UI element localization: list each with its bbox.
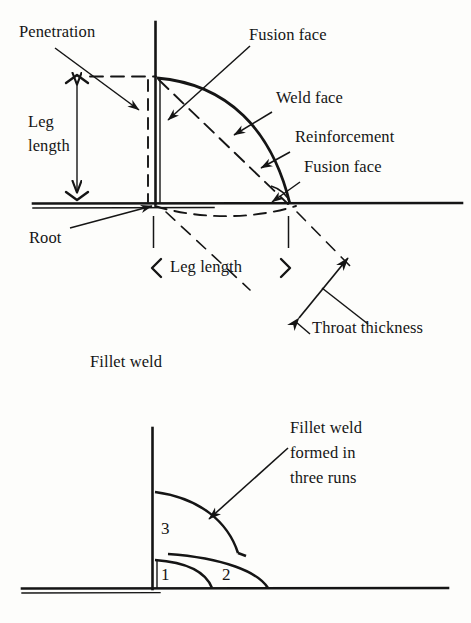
annotation-three-runs-line2: formed in: [290, 443, 356, 462]
leg-length-dashed-leader: [166, 212, 250, 290]
weld-face-leader-line: [234, 112, 272, 135]
bottom-vertical-plate: [153, 428, 158, 589]
reinforcement-leader-line: [261, 152, 290, 168]
annotation-three-runs-line1: Fillet weld: [290, 418, 362, 437]
label-weld-face: Weld face: [276, 88, 343, 107]
weld-run-label-3: 3: [161, 519, 170, 539]
label-root: Root: [29, 228, 62, 247]
throat-thickness-dimension-arrow: [299, 258, 348, 318]
bottom-base-plate: [22, 588, 448, 593]
throat-dashed-leader: [297, 212, 352, 268]
root-leader-line: [70, 206, 152, 228]
penetration-leader-line: [55, 48, 139, 110]
label-leg-length-horizontal: Leg length: [170, 257, 242, 276]
label-penetration: Penetration: [19, 22, 95, 41]
figure-linework: [0, 0, 471, 623]
top-vertical-plate: [156, 22, 161, 204]
weld-run-label-1: 1: [161, 565, 170, 585]
caption-fillet-weld: Fillet weld: [90, 352, 162, 371]
weld-run-label-2: 2: [222, 565, 231, 585]
leg-length-horizontal-extension-lines: [154, 216, 289, 248]
label-fusion-face-top: Fusion face: [249, 25, 327, 44]
top-base-plate: [33, 203, 462, 208]
label-reinforcement: Reinforcement: [295, 127, 394, 146]
three-runs-leader-line: [209, 448, 288, 519]
run-3-to-run-2-junction: [238, 553, 246, 556]
weld-run-2-arc: [168, 554, 268, 588]
annotation-three-runs-line3: three runs: [290, 468, 357, 487]
fillet-weld-figure: Penetration Leg length Fusion face Weld …: [0, 0, 471, 623]
label-fusion-face-bottom: Fusion face: [304, 157, 382, 176]
label-throat-thickness: Throat thickness: [312, 318, 423, 337]
label-leg-length-vertical-line1: Leg: [28, 112, 54, 131]
label-leg-length-vertical-line2: length: [28, 136, 70, 155]
